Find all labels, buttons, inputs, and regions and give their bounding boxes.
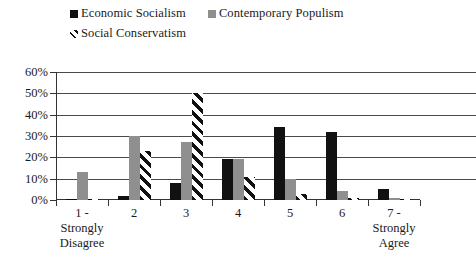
x-axis-category-label: 2 [108, 206, 160, 221]
bar-group [264, 72, 316, 200]
bar [233, 159, 244, 200]
bar [244, 177, 255, 200]
x-axis-label-number: 7 - [387, 206, 401, 220]
hatch-square-icon [70, 30, 78, 38]
x-axis-label-number: 4 [235, 206, 241, 220]
x-axis-category-label: 6 [316, 206, 368, 221]
bar [378, 189, 389, 200]
plot-area [56, 72, 420, 200]
x-axis-category-label: 7 -StronglyAgree [368, 206, 420, 251]
bar [337, 191, 348, 200]
y-axis: 0%10%20%30%40%50%60% [0, 72, 54, 200]
x-axis-category-label: 1 -StronglyDisagree [56, 206, 108, 251]
x-axis-category-label: 5 [264, 206, 316, 221]
y-axis-tick-label: 60% [25, 66, 48, 78]
bar [326, 132, 337, 200]
x-axis-label-number: 2 [131, 206, 137, 220]
legend-label: Economic Socialism [81, 6, 186, 21]
y-axis-tick-label: 20% [25, 151, 48, 163]
legend-item-contemporary-populism: Contemporary Populism [208, 6, 344, 21]
bar-group [56, 72, 108, 200]
x-axis-label-number: 1 - [75, 206, 89, 220]
y-axis-tick-label: 0% [31, 194, 48, 206]
bar [222, 159, 233, 200]
x-axis-category-label: 4 [212, 206, 264, 221]
bar-group [160, 72, 212, 200]
bar-group [316, 72, 368, 200]
black-square-icon [70, 10, 78, 18]
legend-label: Contemporary Populism [219, 6, 344, 21]
bar-group [212, 72, 264, 200]
y-axis-tick-label: 10% [25, 173, 48, 185]
x-axis-label-line2: Strongly [368, 221, 420, 236]
bar [77, 172, 88, 200]
y-axis-tick-label: 40% [25, 109, 48, 121]
legend-item-economic-socialism: Economic Socialism [70, 6, 186, 21]
bar-groups [56, 72, 420, 200]
bar [181, 142, 192, 200]
bar [192, 93, 203, 200]
x-axis-labels: 1 -StronglyDisagree234567 -StronglyAgree [56, 206, 420, 264]
x-axis-label-line3: Disagree [56, 236, 108, 251]
y-axis-tick-label: 30% [25, 130, 48, 142]
y-axis-tick-label: 50% [25, 87, 48, 99]
x-axis-category-label: 3 [160, 206, 212, 221]
legend-label: Social Conservatism [81, 26, 186, 41]
gray-square-icon [208, 10, 216, 18]
bar-group [108, 72, 160, 200]
bar [129, 136, 140, 200]
x-axis-label-number: 3 [183, 206, 189, 220]
legend-item-social-conservatism: Social Conservatism [70, 26, 186, 41]
x-axis-label-number: 6 [339, 206, 345, 220]
bar [140, 151, 151, 200]
chart-legend: Economic Socialism Contemporary Populism… [0, 6, 431, 41]
bar [170, 183, 181, 200]
x-axis-label-line2: Strongly [56, 221, 108, 236]
x-axis-label-number: 5 [287, 206, 293, 220]
bar [274, 127, 285, 200]
x-axis-tick [420, 200, 421, 206]
bar-group [368, 72, 420, 200]
bar [285, 179, 296, 200]
x-axis-label-line3: Agree [368, 236, 420, 251]
